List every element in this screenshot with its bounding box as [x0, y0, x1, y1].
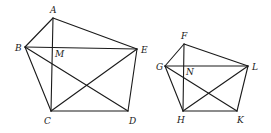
- segment-fg: [165, 44, 184, 66]
- vertex-label-a: A: [49, 5, 57, 15]
- vertex-label-m: M: [54, 49, 65, 59]
- vertex-label-k: K: [236, 115, 245, 125]
- vertex-label-d: D: [128, 116, 136, 126]
- vertex-label-l: L: [251, 62, 258, 72]
- segment-bd: [25, 47, 128, 111]
- segment-ab: [25, 18, 53, 47]
- vertex-label-n: N: [185, 67, 195, 77]
- pentagon-abcde: ABCDEM: [14, 5, 148, 126]
- vertex-label-f: F: [180, 31, 188, 41]
- segment-fl: [184, 44, 248, 66]
- segment-bc: [25, 47, 51, 111]
- vertex-label-h: H: [176, 115, 185, 125]
- vertex-label-b: B: [14, 43, 22, 53]
- vertex-label-e: E: [140, 45, 148, 55]
- geometry-diagram: ABCDEM FGHKLN: [0, 0, 271, 133]
- vertex-label-c: C: [44, 116, 51, 126]
- segment-de: [128, 49, 137, 111]
- pentagon-fghlk: FGHKLN: [156, 31, 258, 125]
- vertex-label-g: G: [156, 62, 163, 72]
- segment-gk: [165, 66, 237, 111]
- segment-ae: [53, 18, 137, 49]
- segment-be: [25, 47, 137, 49]
- segment-gh: [165, 66, 183, 111]
